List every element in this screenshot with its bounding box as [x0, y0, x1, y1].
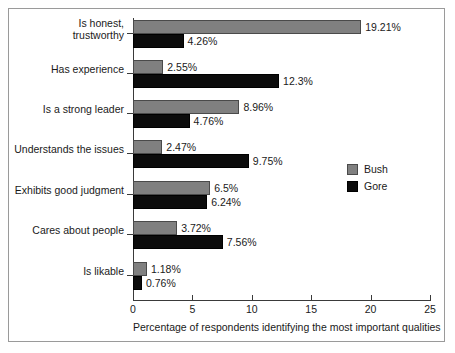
x-tick-label-10: 10 — [237, 303, 267, 315]
bar-value-label-bush-4: 6.5% — [214, 181, 238, 195]
x-tick-label-20: 20 — [356, 303, 386, 315]
legend-label-bush: Bush — [364, 163, 388, 175]
bar-bush-2 — [133, 100, 239, 114]
bar-value-label-bush-0: 19.21% — [365, 20, 401, 34]
chart-legend: Bush Gore — [347, 162, 388, 196]
bar-bush-0 — [133, 20, 361, 34]
bar-gore-0 — [133, 34, 184, 48]
bar-gore-5 — [133, 235, 223, 249]
bar-bush-4 — [133, 181, 210, 195]
legend-item-bush[interactable]: Bush — [347, 162, 388, 176]
bar-gore-2 — [133, 114, 190, 128]
x-tick-label-5: 5 — [177, 303, 207, 315]
x-tick-20 — [371, 295, 372, 300]
x-tick-5 — [192, 295, 193, 300]
bar-value-label-bush-5: 3.72% — [181, 221, 211, 235]
bar-value-label-bush-6: 1.18% — [151, 262, 181, 276]
bar-value-label-gore-0: 4.26% — [188, 34, 218, 48]
bar-bush-3 — [133, 140, 162, 154]
category-label-line: Exhibits good judgment — [10, 184, 124, 196]
legend-label-gore: Gore — [364, 180, 387, 192]
category-tick-2 — [127, 113, 133, 114]
bar-gore-1 — [133, 74, 279, 88]
category-tick-4 — [127, 194, 133, 195]
category-label-line: Has experience — [10, 63, 124, 75]
category-label-1: Has experience — [10, 63, 124, 75]
legend-swatch-gore-icon — [347, 181, 358, 192]
category-label-6: Is likable — [10, 265, 124, 277]
bar-value-label-gore-4: 6.24% — [211, 195, 241, 209]
bar-bush-1 — [133, 60, 163, 74]
legend-item-gore[interactable]: Gore — [347, 179, 388, 193]
category-label-line: Cares about people — [10, 224, 124, 236]
category-tick-0 — [127, 33, 133, 34]
category-tick-1 — [127, 73, 133, 74]
bar-value-label-bush-2: 8.96% — [243, 100, 273, 114]
bar-gore-6 — [133, 276, 142, 290]
category-label-line: Is likable — [10, 265, 124, 277]
category-label-line: trustworthy — [10, 29, 124, 41]
chart-page: 19.21%4.26%2.55%12.3%8.96%4.76%2.47%9.75… — [0, 0, 455, 353]
bar-gore-3 — [133, 154, 249, 168]
x-tick-label-0: 0 — [118, 303, 148, 315]
bar-value-label-gore-5: 7.56% — [227, 235, 257, 249]
category-label-line: Is a strong leader — [10, 103, 124, 115]
bar-value-label-gore-2: 4.76% — [194, 114, 224, 128]
bar-bush-6 — [133, 262, 147, 276]
bar-gore-4 — [133, 195, 207, 209]
category-label-0: Is honest,trustworthy — [10, 17, 124, 41]
x-tick-10 — [252, 295, 253, 300]
category-label-3: Understands the issues — [10, 143, 124, 155]
x-axis-line — [133, 300, 431, 301]
x-tick-label-15: 15 — [296, 303, 326, 315]
x-axis-title: Percentage of respondents identifying th… — [133, 321, 431, 333]
category-tick-6 — [127, 275, 133, 276]
category-label-line: Is honest, — [10, 17, 124, 29]
bar-value-label-gore-6: 0.76% — [146, 276, 176, 290]
x-tick-label-25: 25 — [415, 303, 445, 315]
bar-value-label-gore-1: 12.3% — [283, 74, 313, 88]
category-label-2: Is a strong leader — [10, 103, 124, 115]
legend-swatch-bush-icon — [347, 164, 358, 175]
bar-value-label-bush-1: 2.55% — [167, 60, 197, 74]
x-tick-25 — [430, 295, 431, 300]
bar-bush-5 — [133, 221, 177, 235]
bar-value-label-gore-3: 9.75% — [253, 154, 283, 168]
bar-value-label-bush-3: 2.47% — [166, 140, 196, 154]
x-tick-15 — [311, 295, 312, 300]
category-label-line: Understands the issues — [10, 143, 124, 155]
category-tick-5 — [127, 234, 133, 235]
category-tick-3 — [127, 153, 133, 154]
category-label-5: Cares about people — [10, 224, 124, 236]
category-label-4: Exhibits good judgment — [10, 184, 124, 196]
x-tick-0 — [133, 295, 134, 300]
